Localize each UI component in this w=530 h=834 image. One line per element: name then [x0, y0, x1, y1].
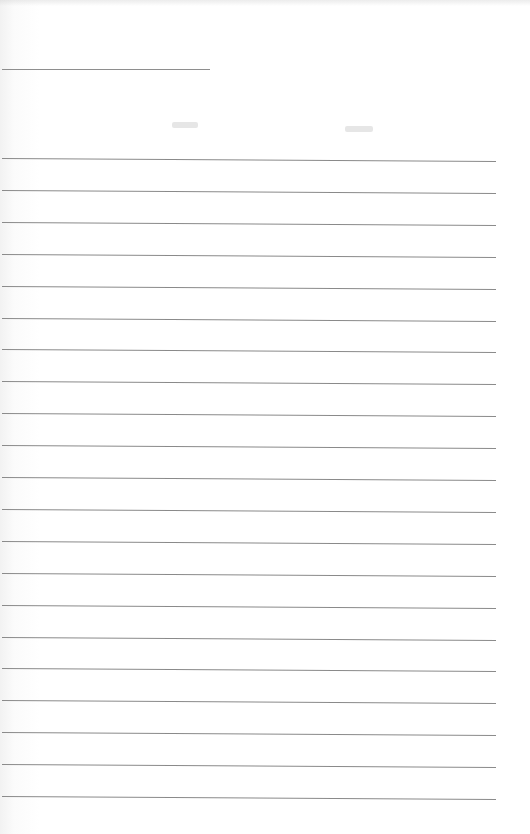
cropped-header-text — [0, 0, 530, 6]
ruled-line — [2, 445, 496, 449]
faint-mark — [345, 126, 373, 132]
ruled-line — [2, 637, 496, 641]
ruled-line — [2, 605, 496, 609]
ruled-line — [2, 413, 496, 417]
ruled-line — [2, 541, 496, 545]
ruled-line — [2, 381, 496, 385]
ruled-line — [2, 254, 496, 258]
lined-page — [0, 0, 530, 834]
ruled-line — [2, 700, 496, 704]
faint-mark — [172, 122, 198, 128]
ruled-line — [2, 318, 496, 322]
ruled-line — [2, 732, 496, 736]
ruled-line — [2, 509, 496, 513]
ruled-line — [2, 222, 496, 226]
ruled-line — [2, 349, 496, 353]
ruled-line — [2, 286, 496, 290]
ruled-line — [2, 796, 496, 800]
ruled-line — [2, 190, 496, 194]
header-rule — [2, 69, 210, 70]
ruled-line — [2, 477, 496, 481]
ruled-line — [2, 158, 496, 162]
ruled-line — [2, 573, 496, 577]
ruled-line — [2, 668, 496, 672]
ruled-line — [2, 764, 496, 768]
